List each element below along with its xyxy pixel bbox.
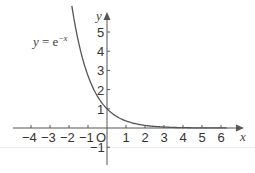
y-axis-arrow-icon — [104, 12, 111, 20]
x-tick-label: 4 — [180, 130, 187, 145]
x-tick-label: −3 — [41, 130, 56, 145]
y-tick-label: 4 — [97, 44, 104, 59]
x-tick-label: −2 — [60, 130, 75, 145]
x-tick-label: 5 — [199, 130, 206, 145]
y-tick-label: 5 — [97, 25, 104, 40]
x-tick-label: 1 — [123, 130, 130, 145]
origin-label: O — [96, 130, 106, 145]
x-tick-label: 2 — [142, 130, 149, 145]
y-tick-label: 3 — [97, 63, 104, 78]
x-tick-label: 3 — [161, 130, 168, 145]
x-tick-label: −4 — [22, 130, 37, 145]
function-label: y = e−x — [31, 33, 67, 49]
y-tick-label: 2 — [97, 83, 104, 98]
exponential-decay-chart: −4−3−2−1123456 x 54321−1 y O y = e−x — [0, 0, 255, 173]
y-axis-label: y — [94, 8, 102, 23]
x-tick-label: 6 — [218, 130, 225, 145]
x-axis-label: x — [239, 129, 246, 144]
curve-e-neg-x — [72, 6, 227, 128]
